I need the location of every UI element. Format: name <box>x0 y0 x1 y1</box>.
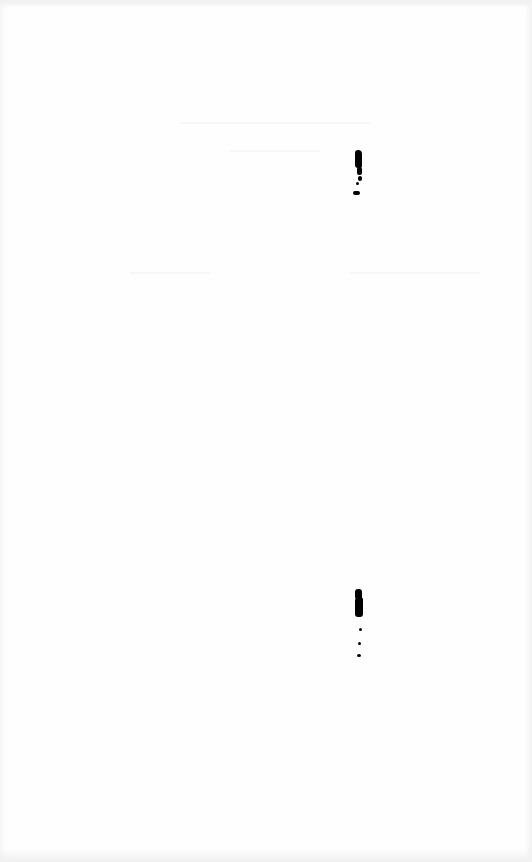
page-top-edge <box>0 0 532 8</box>
faint-text-line <box>130 272 210 274</box>
faint-text-line <box>230 150 320 152</box>
page-right-edge <box>526 0 532 862</box>
faint-text-line <box>350 272 480 274</box>
faint-text-line <box>180 122 370 124</box>
page-bottom-edge <box>0 848 532 862</box>
document-page <box>0 0 532 862</box>
